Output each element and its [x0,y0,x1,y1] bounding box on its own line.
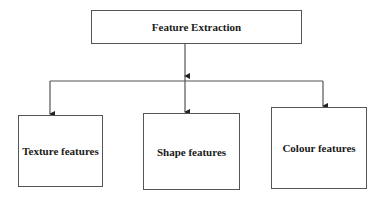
shape-features-label: Shape features [157,146,226,158]
feature-extraction-node: Feature Extraction [91,10,302,44]
texture-features-label: Texture features [22,145,98,157]
colour-features-label: Colour features [282,142,355,154]
shape-features-node: Shape features [143,113,240,190]
texture-features-node: Texture features [18,115,103,187]
feature-extraction-label: Feature Extraction [152,21,241,33]
colour-features-node: Colour features [271,107,367,189]
